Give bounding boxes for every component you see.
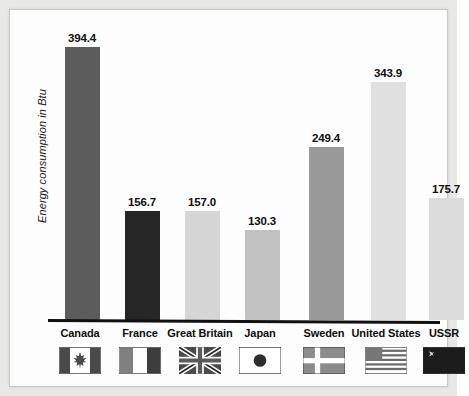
bar-column: 343.9 [371,22,406,320]
plot-area: 394.4156.7157.0130.3249.4343.9175.7 [50,22,438,320]
chart-panel: Energy consumption in Btu 394.4156.7157.… [9,9,448,387]
bar-ussr[interactable] [429,198,464,320]
bar-value-label: 175.7 [432,183,460,195]
bar-canada[interactable] [65,47,100,320]
bar-value-label: 394.4 [68,32,96,44]
y-axis-title: Energy consumption in Btu [36,76,48,236]
x-axis-line [48,319,440,324]
bar-column: 130.3 [245,22,280,320]
bar-value-label: 249.4 [312,132,340,144]
bar-value-label: 343.9 [374,67,402,79]
category-ussr: USSR [399,326,469,374]
bar-column: 249.4 [309,22,344,320]
bar-sweden[interactable] [309,147,344,320]
category-label: USSR [399,326,469,340]
bar-united-states[interactable] [371,82,406,320]
flag-ussr-icon [399,347,469,374]
bar-france[interactable] [125,211,160,320]
bar-column: 394.4 [65,22,100,320]
bar-column: 156.7 [125,22,160,320]
bar-value-label: 130.3 [248,215,276,227]
bar-japan[interactable] [245,230,280,320]
bar-value-label: 157.0 [188,196,216,208]
bar-great-britain[interactable] [185,211,220,320]
bar-column: 157.0 [185,22,220,320]
bar-value-label: 156.7 [128,196,156,208]
bar-column: 175.7 [429,22,464,320]
category-axis: CanadaFranceGreat BritainJapanSwedenUnit… [48,326,442,388]
